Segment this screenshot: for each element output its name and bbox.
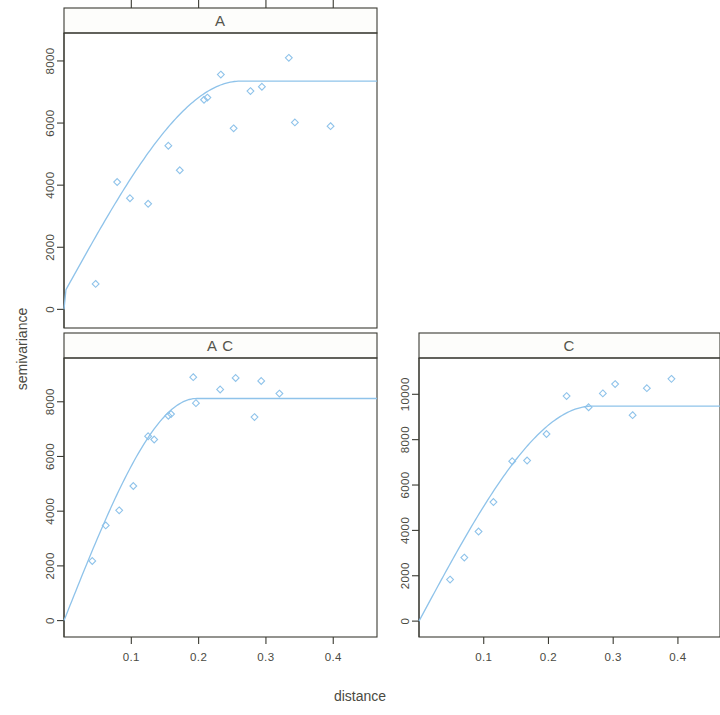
plot-canvas: A02000400060008000A C020004000600080000.… <box>0 0 720 715</box>
data-point <box>258 83 265 90</box>
x-tick-label: 0.3 <box>257 651 274 663</box>
data-point <box>190 374 197 381</box>
x-tick-label: 0.4 <box>325 651 342 663</box>
y-tick-label: 4000 <box>399 517 411 544</box>
x-tick-label: 0.2 <box>540 651 557 663</box>
data-point <box>193 400 200 407</box>
data-point <box>276 390 283 397</box>
y-axis-title-wrap: semivariance <box>13 289 31 409</box>
data-point <box>251 414 258 421</box>
y-tick-label: 10000 <box>399 377 411 411</box>
y-tick-label: 2000 <box>44 234 56 261</box>
y-tick-label: 2000 <box>399 562 411 589</box>
data-point <box>668 375 675 382</box>
data-point <box>612 381 619 388</box>
fitted-variogram-line <box>64 81 377 309</box>
data-point <box>247 88 254 95</box>
data-point <box>130 483 137 490</box>
y-axis-title: semivariance <box>14 308 30 390</box>
x-tick-label: 0.2 <box>190 651 207 663</box>
data-point <box>285 54 292 61</box>
data-point <box>585 404 592 411</box>
y-tick-label: 2000 <box>44 552 56 579</box>
data-point <box>145 200 152 207</box>
data-point <box>217 386 224 393</box>
data-point <box>643 385 650 392</box>
x-axis-title: distance <box>334 688 386 704</box>
data-point <box>89 558 96 565</box>
data-point <box>232 375 239 382</box>
y-tick-label: 4000 <box>44 172 56 199</box>
strip-label-a: A <box>215 12 226 29</box>
strip-label-a-c: A C <box>207 337 234 354</box>
y-tick-label: 6000 <box>399 471 411 498</box>
data-point <box>543 431 550 438</box>
data-point <box>475 528 482 535</box>
fitted-variogram-line <box>419 406 720 621</box>
fitted-variogram-line <box>64 398 377 620</box>
x-tick-label: 0.4 <box>669 651 686 663</box>
data-point <box>524 457 531 464</box>
data-point <box>127 195 134 202</box>
strip-label-c: C <box>564 337 576 354</box>
data-point <box>447 576 454 583</box>
data-point <box>217 71 224 78</box>
data-point <box>165 142 172 149</box>
y-tick-label: 0 <box>44 306 56 313</box>
data-point <box>92 281 99 288</box>
data-point <box>230 125 237 132</box>
y-tick-label: 0 <box>44 617 56 624</box>
x-tick-label: 0.1 <box>475 651 492 663</box>
y-tick-label: 8000 <box>44 47 56 74</box>
data-point <box>490 499 497 506</box>
panel-a: A02000400060008000 <box>44 0 377 328</box>
panel-frame <box>64 358 377 637</box>
data-point <box>327 123 334 130</box>
data-point <box>151 436 158 443</box>
data-point <box>563 393 570 400</box>
y-tick-label: 6000 <box>44 109 56 136</box>
panel-c: C02000400060008000100000.10.20.30.4 <box>399 333 720 663</box>
data-point <box>291 119 298 126</box>
variogram-figure: A02000400060008000A C020004000600080000.… <box>0 0 720 715</box>
y-tick-label: 8000 <box>44 388 56 415</box>
data-point <box>114 179 121 186</box>
x-tick-label: 0.1 <box>123 651 140 663</box>
data-point <box>599 390 606 397</box>
data-point <box>258 378 265 385</box>
x-tick-label: 0.3 <box>605 651 622 663</box>
panel-frame <box>419 358 720 637</box>
x-axis-title-wrap: distance <box>0 687 720 705</box>
panel-a-c: A C020004000600080000.10.20.30.4 <box>44 333 377 663</box>
data-point <box>176 167 183 174</box>
y-tick-label: 6000 <box>44 443 56 470</box>
y-tick-label: 8000 <box>399 426 411 453</box>
data-point <box>629 412 636 419</box>
data-point <box>461 554 468 561</box>
data-point <box>116 507 123 514</box>
y-tick-label: 4000 <box>44 498 56 525</box>
y-tick-label: 0 <box>399 618 411 625</box>
